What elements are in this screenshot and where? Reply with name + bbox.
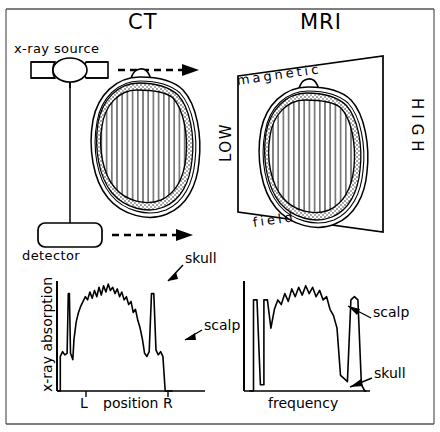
page-title-mri: MRI (300, 12, 342, 33)
mri-head-cross-section (259, 79, 368, 227)
ct-chart-ylabel: x-ray absorption (40, 277, 54, 392)
mri-plane-right-label: HIGH (409, 98, 424, 157)
ct-annotation-scalp: scalp (204, 318, 240, 332)
ct-chart-xtick-left: L (80, 396, 88, 410)
mri-chart-axes (244, 281, 370, 391)
detector-icon (38, 223, 102, 247)
page-title-ct: CT (128, 12, 158, 33)
mri-profile-trace (250, 286, 366, 391)
mri-plane-left-label: LOW (219, 123, 234, 162)
ct-chart-xlabel: position (103, 396, 158, 410)
ct-profile-trace (58, 284, 172, 391)
ct-chart-xtick-right: R (163, 396, 173, 410)
beam-arrow-top (118, 64, 199, 76)
mri-annotation-scalp: scalp (373, 305, 409, 319)
beam-arrow-bottom (112, 229, 193, 241)
ct-annotation-leaders (168, 265, 202, 340)
ct-annotation-skull: skull (185, 251, 217, 265)
figure-ct-vs-mri: CT MRI x-ray source detector magnetic fi… (0, 0, 440, 432)
ct-head-cross-section (91, 69, 200, 217)
detector-label: detector (22, 249, 80, 262)
xray-source-label: x-ray source (14, 42, 100, 55)
mri-chart-xlabel: frequency (268, 396, 338, 410)
ct-chart-axes (57, 281, 205, 397)
mri-annotation-skull: skull (374, 366, 406, 380)
